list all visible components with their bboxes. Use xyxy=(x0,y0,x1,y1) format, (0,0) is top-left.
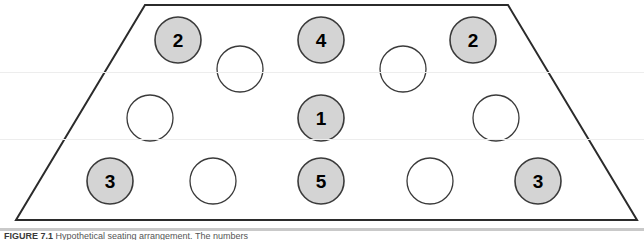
seat-number-label: 3 xyxy=(105,171,116,192)
seat-filled: 5 xyxy=(298,158,344,204)
seat-filled: 3 xyxy=(87,158,133,204)
figure-container: 2421353 FIGURE 7.1 Hypothetical seating … xyxy=(0,0,644,240)
seat-circle xyxy=(217,46,263,92)
seat-circle xyxy=(473,95,519,141)
scan-artifact-upper xyxy=(0,72,644,73)
seat-circle xyxy=(380,46,426,92)
seat-circle xyxy=(407,158,453,204)
seat-circle xyxy=(127,95,173,141)
seat-number-label: 3 xyxy=(533,171,544,192)
seat-filled: 2 xyxy=(155,17,201,63)
seat-number-label: 1 xyxy=(316,108,327,129)
seat-number-label: 2 xyxy=(173,30,184,51)
seat-filled: 3 xyxy=(515,158,561,204)
seat-number-label: 4 xyxy=(316,30,327,51)
seating-diagram: 2421353 xyxy=(0,0,644,240)
figure-caption: FIGURE 7.1 Hypothetical seating arrangem… xyxy=(0,228,644,240)
seat-circle xyxy=(190,158,236,204)
seat-number-label: 2 xyxy=(468,30,479,51)
seat-number-label: 5 xyxy=(316,171,327,192)
seat-filled: 4 xyxy=(298,17,344,63)
caption-line: FIGURE 7.1 Hypothetical seating arrangem… xyxy=(4,231,248,240)
seat-empty xyxy=(380,46,426,92)
seat-empty xyxy=(407,158,453,204)
caption-label: FIGURE 7.1 xyxy=(4,231,53,240)
scan-artifact-lower xyxy=(0,139,644,140)
seat-empty xyxy=(217,46,263,92)
seat-filled: 2 xyxy=(450,17,496,63)
seat-empty xyxy=(127,95,173,141)
seat-empty xyxy=(473,95,519,141)
seat-empty xyxy=(190,158,236,204)
caption-body: Hypothetical seating arrangement. The nu… xyxy=(53,231,248,240)
seat-filled: 1 xyxy=(298,95,344,141)
